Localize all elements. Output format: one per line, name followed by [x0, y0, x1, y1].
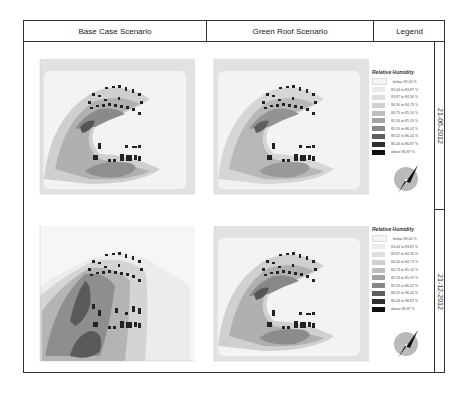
- date-label-winter: 21-12-2012: [437, 274, 444, 310]
- legend-title: Relative Humidity: [372, 226, 432, 232]
- map-base-case-summer: [30, 59, 200, 209]
- header-green-roof: Green Roof Scenario: [207, 21, 374, 42]
- north-arrow-icon: [388, 326, 424, 366]
- map-green-roof-summer: [204, 59, 374, 209]
- legend-summer: Relative Humidity below 83.44 % 83.44 to…: [372, 69, 432, 156]
- legend-item: 86.02 to 86.44 %: [372, 133, 432, 141]
- legend-item: 84.30 to 84.73 %: [372, 258, 432, 266]
- legend-item: 85.59 to 86.02 %: [372, 282, 432, 290]
- legend-item: 86.44 to 86.87 %: [372, 140, 432, 148]
- legend-item: 83.87 to 84.30 %: [372, 251, 432, 259]
- date-cell-summer: 21-06-2012: [434, 42, 445, 210]
- header-base-case: Base Case Scenario: [24, 21, 207, 42]
- legend-item: 83.44 to 83.87 %: [372, 86, 432, 94]
- north-arrow-icon: [388, 161, 424, 201]
- legend-item: below 83.44 %: [372, 78, 432, 86]
- legend-item: 83.44 to 83.87 %: [372, 243, 432, 251]
- legend-item: 86.44 to 86.87 %: [372, 297, 432, 305]
- legend-item: 83.87 to 84.30 %: [372, 94, 432, 102]
- legend-item: 86.02 to 86.44 %: [372, 290, 432, 298]
- legend-item: above 86.87 %: [372, 305, 432, 313]
- legend-title: Relative Humidity: [372, 69, 432, 75]
- legend-item: 84.30 to 84.73 %: [372, 101, 432, 109]
- legend-item: above 86.87 %: [372, 148, 432, 156]
- header-legend: Legend: [374, 21, 445, 42]
- date-cell-winter: 21-12-2012: [434, 210, 445, 373]
- legend-item: 84.73 to 85.16 %: [372, 266, 432, 274]
- legend-item: 85.59 to 86.02 %: [372, 125, 432, 133]
- legend-winter: Relative Humidity below 83.44 % 83.44 to…: [372, 226, 432, 313]
- legend-item: below 83.44 %: [372, 235, 432, 243]
- map-green-roof-winter: [204, 226, 374, 376]
- date-label-summer: 21-06-2012: [437, 108, 444, 144]
- figure-table: Base Case Scenario Green Roof Scenario L…: [23, 20, 445, 373]
- legend-item: 84.73 to 85.16 %: [372, 109, 432, 117]
- map-base-case-winter: [30, 226, 200, 376]
- legend-item: 85.16 to 85.59 %: [372, 274, 432, 282]
- legend-item: 85.16 to 85.59 %: [372, 117, 432, 125]
